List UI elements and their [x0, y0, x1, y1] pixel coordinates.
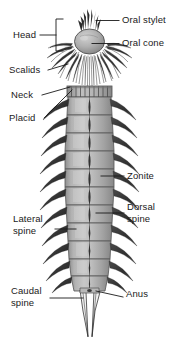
anatomy-figure: Oral stylet Oral cone Head Scalids Neck … [0, 0, 182, 339]
label-dorsal-spine: Dorsal spine [127, 201, 155, 224]
label-oral-stylet: Oral stylet [122, 14, 166, 26]
label-caudal-spine: Caudal spine [11, 285, 42, 308]
label-head: Head [13, 29, 36, 41]
label-placid: Placid [9, 112, 35, 124]
label-oral-cone: Oral cone [122, 37, 164, 49]
leader-anus [96, 291, 123, 297]
label-neck: Neck [11, 89, 33, 101]
label-zonite: Zonite [127, 170, 154, 182]
leader-placid [44, 90, 72, 118]
label-anus: Anus [126, 288, 148, 300]
label-scalids: Scalids [9, 64, 40, 76]
leader-head-bracket [56, 19, 63, 51]
label-lateral-spine: Lateral spine [13, 213, 43, 236]
leader-neck [42, 87, 70, 95]
leader-scalids [48, 64, 68, 70]
